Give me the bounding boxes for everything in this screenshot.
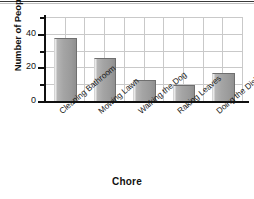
x-axis-title: Chore: [0, 176, 254, 187]
x-axis-category-labels: Cleaning BathroomMowing LawnWalking the …: [0, 0, 254, 199]
bar-chart-figure: Number of People 02040 Cleaning Bathroom…: [0, 0, 254, 199]
x-category-label: Doing the Dishes: [214, 68, 254, 116]
